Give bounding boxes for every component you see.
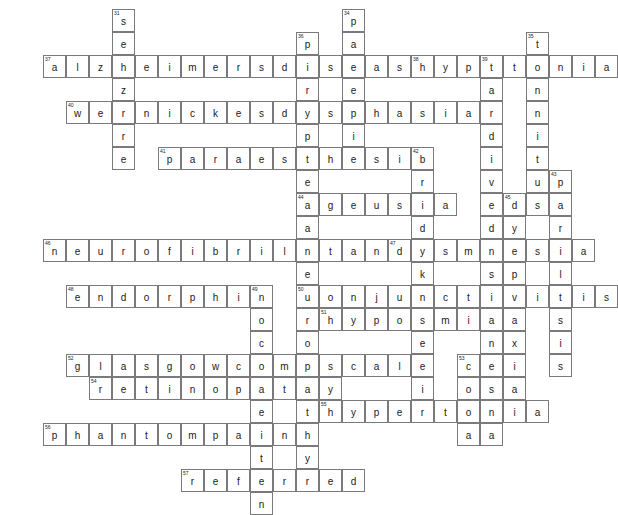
- crossword-cell[interactable]: 35t: [526, 32, 549, 55]
- crossword-cell[interactable]: 31s: [112, 9, 135, 32]
- crossword-cell[interactable]: i: [411, 193, 434, 216]
- crossword-cell[interactable]: s: [273, 147, 296, 170]
- crossword-cell[interactable]: e: [342, 147, 365, 170]
- crossword-cell[interactable]: e: [503, 239, 526, 262]
- crossword-cell[interactable]: e: [342, 55, 365, 78]
- crossword-cell[interactable]: n: [411, 285, 434, 308]
- crossword-cell[interactable]: r: [158, 285, 181, 308]
- crossword-cell[interactable]: r: [296, 78, 319, 101]
- crossword-cell[interactable]: a: [365, 354, 388, 377]
- crossword-cell[interactable]: 43p: [549, 170, 572, 193]
- crossword-cell[interactable]: m: [181, 423, 204, 446]
- crossword-cell[interactable]: z: [112, 78, 135, 101]
- crossword-cell[interactable]: y: [342, 308, 365, 331]
- crossword-cell[interactable]: t: [296, 400, 319, 423]
- crossword-cell[interactable]: u: [526, 170, 549, 193]
- crossword-cell[interactable]: l: [549, 262, 572, 285]
- crossword-cell[interactable]: n: [89, 285, 112, 308]
- crossword-cell[interactable]: r: [112, 239, 135, 262]
- crossword-cell[interactable]: o: [319, 285, 342, 308]
- crossword-cell[interactable]: v: [503, 285, 526, 308]
- crossword-cell[interactable]: a: [388, 101, 411, 124]
- crossword-cell[interactable]: g: [158, 354, 181, 377]
- crossword-cell[interactable]: h: [66, 423, 89, 446]
- crossword-cell[interactable]: y: [296, 101, 319, 124]
- crossword-cell[interactable]: e: [204, 469, 227, 492]
- crossword-cell[interactable]: i: [181, 239, 204, 262]
- crossword-cell[interactable]: s: [595, 285, 618, 308]
- crossword-cell[interactable]: o: [457, 377, 480, 400]
- crossword-cell[interactable]: t: [503, 55, 526, 78]
- crossword-cell[interactable]: e: [112, 377, 135, 400]
- crossword-cell[interactable]: n: [480, 331, 503, 354]
- crossword-cell[interactable]: a: [434, 193, 457, 216]
- crossword-cell[interactable]: y: [296, 446, 319, 469]
- crossword-cell[interactable]: e: [388, 400, 411, 423]
- crossword-cell[interactable]: i: [250, 423, 273, 446]
- crossword-cell[interactable]: e: [112, 147, 135, 170]
- crossword-cell[interactable]: 51h: [319, 308, 342, 331]
- crossword-cell[interactable]: l: [388, 354, 411, 377]
- crossword-cell[interactable]: a: [526, 400, 549, 423]
- crossword-cell[interactable]: y: [342, 400, 365, 423]
- crossword-cell[interactable]: n: [480, 239, 503, 262]
- crossword-cell[interactable]: n: [296, 239, 319, 262]
- crossword-cell[interactable]: 55h: [319, 400, 342, 423]
- crossword-cell[interactable]: i: [503, 354, 526, 377]
- crossword-cell[interactable]: i: [572, 285, 595, 308]
- crossword-cell[interactable]: s: [480, 377, 503, 400]
- crossword-cell[interactable]: e: [250, 147, 273, 170]
- crossword-cell[interactable]: k: [204, 101, 227, 124]
- crossword-cell[interactable]: n: [112, 423, 135, 446]
- crossword-cell[interactable]: a: [296, 377, 319, 400]
- crossword-cell[interactable]: o: [250, 354, 273, 377]
- crossword-cell[interactable]: y: [319, 377, 342, 400]
- crossword-cell[interactable]: s: [319, 354, 342, 377]
- crossword-cell[interactable]: 42b: [411, 147, 434, 170]
- crossword-cell[interactable]: n: [342, 285, 365, 308]
- crossword-cell[interactable]: a: [342, 239, 365, 262]
- crossword-cell[interactable]: i: [457, 308, 480, 331]
- crossword-cell[interactable]: s: [411, 101, 434, 124]
- crossword-cell[interactable]: n: [273, 423, 296, 446]
- crossword-cell[interactable]: a: [503, 308, 526, 331]
- crossword-cell[interactable]: y: [411, 239, 434, 262]
- crossword-cell[interactable]: r: [227, 55, 250, 78]
- crossword-cell[interactable]: r: [411, 170, 434, 193]
- crossword-cell[interactable]: j: [365, 285, 388, 308]
- crossword-cell[interactable]: b: [204, 239, 227, 262]
- crossword-cell[interactable]: u: [388, 285, 411, 308]
- crossword-cell[interactable]: p: [296, 354, 319, 377]
- crossword-cell[interactable]: o: [457, 400, 480, 423]
- crossword-cell[interactable]: e: [319, 469, 342, 492]
- crossword-cell[interactable]: s: [480, 262, 503, 285]
- crossword-cell[interactable]: a: [480, 423, 503, 446]
- crossword-cell[interactable]: s: [250, 55, 273, 78]
- crossword-cell[interactable]: i: [388, 147, 411, 170]
- crossword-cell[interactable]: i: [572, 55, 595, 78]
- crossword-cell[interactable]: t: [434, 400, 457, 423]
- crossword-cell[interactable]: r: [411, 400, 434, 423]
- crossword-cell[interactable]: 50u: [296, 285, 319, 308]
- crossword-cell[interactable]: 44a: [296, 193, 319, 216]
- crossword-cell[interactable]: p: [227, 377, 250, 400]
- crossword-cell[interactable]: w: [204, 354, 227, 377]
- crossword-cell[interactable]: o: [135, 239, 158, 262]
- crossword-cell[interactable]: h: [365, 101, 388, 124]
- crossword-cell[interactable]: o: [181, 354, 204, 377]
- crossword-cell[interactable]: m: [457, 239, 480, 262]
- crossword-cell[interactable]: a: [227, 423, 250, 446]
- crossword-cell[interactable]: 40w: [66, 101, 89, 124]
- crossword-cell[interactable]: s: [434, 239, 457, 262]
- crossword-cell[interactable]: n: [181, 377, 204, 400]
- crossword-cell[interactable]: i: [503, 400, 526, 423]
- crossword-cell[interactable]: o: [158, 423, 181, 446]
- crossword-cell[interactable]: r: [204, 147, 227, 170]
- crossword-cell[interactable]: e: [411, 354, 434, 377]
- crossword-cell[interactable]: 54r: [89, 377, 112, 400]
- crossword-cell[interactable]: a: [250, 377, 273, 400]
- crossword-cell[interactable]: a: [181, 147, 204, 170]
- crossword-cell[interactable]: t: [526, 147, 549, 170]
- crossword-cell[interactable]: s: [319, 101, 342, 124]
- crossword-cell[interactable]: l: [66, 55, 89, 78]
